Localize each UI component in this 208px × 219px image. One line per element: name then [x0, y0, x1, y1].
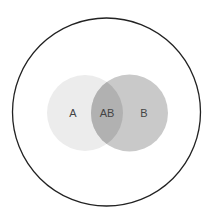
set-a-label: A — [69, 107, 77, 119]
intersection-label: AB — [100, 107, 115, 119]
venn-diagram: A AB B — [0, 0, 208, 219]
set-b-label: B — [140, 107, 147, 119]
